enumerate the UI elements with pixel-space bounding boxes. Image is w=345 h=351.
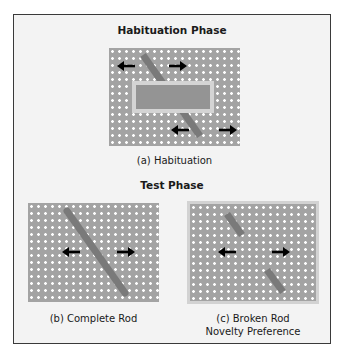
arrow-left-icon xyxy=(171,125,189,135)
rod-bottom-segment xyxy=(267,270,283,292)
arrow-left-icon xyxy=(218,247,236,257)
broken-rod-caption-line2: Novelty Preference xyxy=(187,325,319,338)
arrow-right-icon xyxy=(219,125,237,135)
complete-rod-scene xyxy=(28,203,159,302)
figure-frame: Habituation Phase xyxy=(13,14,331,344)
broken-rod-frame xyxy=(187,201,319,304)
broken-rod-caption: (c) Broken Rod Novelty Preference xyxy=(187,312,319,338)
habituation-phase-heading: Habituation Phase xyxy=(14,24,330,36)
rod-top-segment xyxy=(227,214,242,235)
habituation-display xyxy=(109,48,240,146)
arrow-left-icon xyxy=(62,247,80,257)
occluder-block xyxy=(132,81,214,113)
arrow-left-icon xyxy=(117,61,135,71)
habituation-caption: (a) Habituation xyxy=(109,154,240,167)
arrow-right-icon xyxy=(117,247,135,257)
habituation-scene xyxy=(109,48,240,146)
arrow-right-icon xyxy=(272,247,290,257)
complete-rod-caption: (b) Complete Rod xyxy=(28,312,159,325)
broken-rod-scene xyxy=(190,204,316,301)
broken-rod-caption-line1: (c) Broken Rod xyxy=(187,312,319,325)
arrow-right-icon xyxy=(169,61,187,71)
complete-rod-caption-text: (b) Complete Rod xyxy=(50,313,138,324)
test-phase-heading: Test Phase xyxy=(14,179,330,191)
complete-rod-display xyxy=(28,203,159,302)
broken-rod-display xyxy=(190,204,316,301)
